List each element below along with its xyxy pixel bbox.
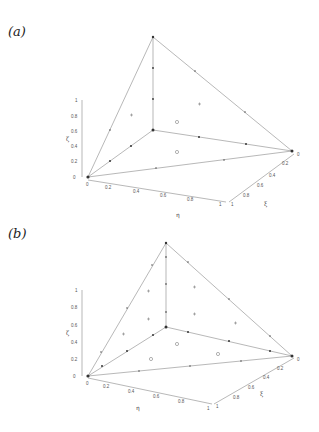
svg-text:0: 0 <box>86 381 89 386</box>
svg-text:0.2: 0.2 <box>277 366 284 371</box>
figure-canvas: 00.20.40.60.81 00.20.40.60.81 10.80.60.4… <box>0 0 319 432</box>
svg-text:0.4: 0.4 <box>133 189 140 194</box>
svg-text:0.8: 0.8 <box>178 399 185 404</box>
panel-b-face-nodes <box>122 286 237 361</box>
svg-text:0.4: 0.4 <box>128 389 135 394</box>
svg-text:1: 1 <box>216 404 219 409</box>
panel-a-ticks: 00.20.40.60.81 00.20.40.60.81 10.80.60.4… <box>66 98 300 219</box>
svg-text:1: 1 <box>219 202 222 207</box>
svg-text:0.2: 0.2 <box>103 384 110 389</box>
svg-text:0.2: 0.2 <box>71 159 78 164</box>
zeta-label-a: ζ <box>66 135 70 143</box>
svg-text:0: 0 <box>86 182 89 187</box>
svg-text:0: 0 <box>73 175 76 180</box>
panel-a-face-nodes <box>130 103 201 154</box>
eta-label-a: η <box>176 211 180 219</box>
svg-text:0: 0 <box>297 357 300 362</box>
zeta-label-b: ζ <box>66 329 70 337</box>
panel-a-plot <box>82 37 294 202</box>
svg-text:0.6: 0.6 <box>160 193 167 198</box>
svg-text:0: 0 <box>73 374 76 379</box>
svg-text:0.6: 0.6 <box>71 323 78 328</box>
xi-label-a: ξ <box>264 200 268 208</box>
svg-text:0.4: 0.4 <box>71 144 78 149</box>
svg-text:0.2: 0.2 <box>282 161 289 166</box>
svg-text:0.4: 0.4 <box>269 173 276 178</box>
panel-a-edge-nodes <box>86 36 293 179</box>
svg-text:0.4: 0.4 <box>71 340 78 345</box>
svg-text:1: 1 <box>207 406 210 411</box>
svg-text:0.8: 0.8 <box>71 305 78 310</box>
svg-text:0: 0 <box>297 152 300 157</box>
svg-text:0.6: 0.6 <box>71 129 78 134</box>
svg-text:1: 1 <box>75 288 78 293</box>
svg-text:0.4: 0.4 <box>263 375 270 380</box>
svg-text:0.8: 0.8 <box>187 197 194 202</box>
svg-text:0.8: 0.8 <box>71 114 78 119</box>
svg-text:0.2: 0.2 <box>105 185 112 190</box>
svg-text:0.6: 0.6 <box>257 183 264 188</box>
svg-text:1: 1 <box>231 202 234 207</box>
svg-text:0.6: 0.6 <box>248 385 255 390</box>
svg-text:0.8: 0.8 <box>243 193 250 198</box>
svg-text:0.6: 0.6 <box>153 394 160 399</box>
eta-label-b: η <box>136 404 140 412</box>
svg-text:0.8: 0.8 <box>233 395 240 400</box>
xi-label-b: ξ <box>260 390 264 398</box>
svg-text:0.2: 0.2 <box>71 357 78 362</box>
svg-text:1: 1 <box>75 98 78 103</box>
